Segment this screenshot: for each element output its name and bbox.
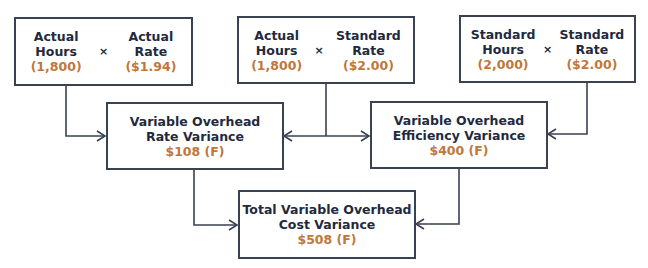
term-label: Hours [256, 43, 298, 58]
term-label: Rate [576, 42, 609, 57]
term-value: ($2.00) [343, 58, 394, 73]
multiply-icon: × [314, 44, 323, 57]
total-variance-box: Total Variable Overhead Cost Variance $5… [238, 190, 416, 259]
term-label: Actual [34, 29, 79, 44]
term-label: Hours [482, 42, 524, 57]
variance-title: Efficiency Variance [393, 128, 526, 143]
variance-value: $400 (F) [429, 143, 488, 158]
variance-title: Total Variable Overhead [242, 202, 411, 217]
actual-hours-x-standard-rate-box: Actual Hours (1,800) × Standard Rate ($2… [237, 16, 415, 84]
rate-variance-box: Variable Overhead Rate Variance $108 (F) [106, 102, 284, 170]
term-label: Standard [471, 27, 536, 42]
multiply-icon: × [543, 43, 552, 56]
standard-rate-term: Standard Rate ($2.00) [336, 28, 401, 73]
actual-hours-term: Actual Hours (1,800) [251, 28, 302, 73]
variance-title: Cost Variance [279, 217, 376, 232]
variance-value: $508 (F) [297, 232, 356, 247]
term-label: Standard [559, 27, 624, 42]
standard-rate-term: Standard Rate ($2.00) [559, 27, 624, 72]
connector-efficiency-to-total [416, 168, 459, 224]
multiply-icon: × [99, 45, 108, 58]
standard-hours-x-standard-rate-box: Standard Hours (2,000) × Standard Rate (… [459, 15, 636, 83]
term-value: ($2.00) [566, 57, 617, 72]
connector-actual-to-rate [66, 85, 105, 136]
actual-hours-term: Actual Hours (1,800) [31, 29, 82, 74]
variance-title: Variable Overhead [394, 113, 525, 128]
actual-rate-term: Actual Rate ($1.94) [125, 29, 176, 74]
term-value: (1,800) [31, 59, 82, 74]
term-value: ($1.94) [125, 59, 176, 74]
term-value: (2,000) [478, 57, 529, 72]
term-label: Actual [254, 28, 299, 43]
efficiency-variance-box: Variable Overhead Efficiency Variance $4… [370, 101, 548, 169]
term-label: Rate [352, 43, 385, 58]
variance-value: $108 (F) [165, 144, 224, 159]
term-label: Standard [336, 28, 401, 43]
actual-hours-x-actual-rate-box: Actual Hours (1,800) × Actual Rate ($1.9… [14, 17, 193, 86]
term-label: Hours [35, 44, 77, 59]
connector-rate-to-total [194, 169, 237, 225]
term-label: Rate [135, 44, 168, 59]
variance-title: Rate Variance [146, 129, 244, 144]
connector-standard-to-efficiency [548, 82, 587, 134]
term-value: (1,800) [251, 58, 302, 73]
variance-title: Variable Overhead [130, 114, 261, 129]
standard-hours-term: Standard Hours (2,000) [471, 27, 536, 72]
term-label: Actual [129, 29, 174, 44]
